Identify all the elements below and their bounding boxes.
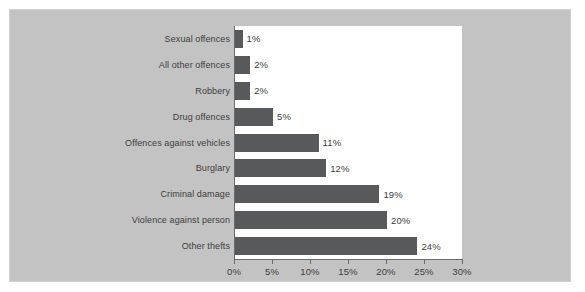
bar-row: Burglary12%: [10, 155, 572, 181]
category-label: Burglary: [20, 163, 230, 173]
bar-container: 20%: [235, 207, 410, 233]
bar-row: Offences against vehicles11%: [10, 130, 572, 156]
bar-container: 12%: [235, 155, 350, 181]
x-tick-label: 0%: [227, 266, 241, 277]
category-label: Drug offences: [20, 112, 230, 122]
category-label: Criminal damage: [20, 189, 230, 199]
x-axis-ticks: 0%5%10%15%20%25%30%: [234, 260, 463, 282]
x-tick-label: 30%: [452, 266, 471, 277]
bar-value-label: 11%: [323, 137, 342, 148]
bar-value-label: 5%: [277, 111, 291, 122]
bar-container: 24%: [235, 233, 441, 259]
x-tick-label: 10%: [300, 266, 319, 277]
category-label: Violence against person: [20, 215, 230, 225]
bar-row: Violence against person20%: [10, 207, 572, 233]
bar-value-label: 2%: [254, 85, 268, 96]
x-tick-mark: [462, 260, 463, 264]
bar-value-label: 12%: [330, 163, 349, 174]
x-tick-label: 15%: [338, 266, 357, 277]
bar-row: Drug offences5%: [10, 104, 572, 130]
bar-row: Robbery2%: [10, 78, 572, 104]
bar-value-label: 20%: [391, 215, 410, 226]
bar[interactable]: [235, 237, 417, 255]
x-tick-label: 25%: [414, 266, 433, 277]
bar-container: 1%: [235, 26, 261, 52]
category-label: Offences against vehicles: [20, 138, 230, 148]
x-tick-label: 20%: [376, 266, 395, 277]
bar-container: 2%: [235, 78, 268, 104]
x-tick-mark: [310, 260, 311, 264]
bar[interactable]: [235, 56, 250, 74]
bar-value-label: 1%: [247, 33, 261, 44]
bar-container: 5%: [235, 104, 291, 130]
bar-value-label: 24%: [421, 241, 440, 252]
x-tick-mark: [424, 260, 425, 264]
bar-row: Other thefts24%: [10, 233, 572, 259]
bar-value-label: 2%: [254, 59, 268, 70]
category-label: Sexual offences: [20, 34, 230, 44]
bar[interactable]: [235, 185, 379, 203]
x-tick-mark: [348, 260, 349, 264]
x-tick-mark: [386, 260, 387, 264]
bar[interactable]: [235, 211, 387, 229]
x-tick-label: 5%: [265, 266, 279, 277]
bar-rows: Sexual offences1%All other offences2%Rob…: [10, 26, 572, 259]
bar[interactable]: [235, 30, 243, 48]
x-tick-mark: [272, 260, 273, 264]
bar[interactable]: [235, 82, 250, 100]
bar[interactable]: [235, 134, 319, 152]
category-label: Other thefts: [20, 241, 230, 251]
bar-row: All other offences2%: [10, 52, 572, 78]
bar[interactable]: [235, 159, 326, 177]
bar-container: 11%: [235, 130, 341, 156]
bar-row: Sexual offences1%: [10, 26, 572, 52]
category-label: Robbery: [20, 86, 230, 96]
bar-container: 2%: [235, 52, 268, 78]
x-tick-mark: [234, 260, 235, 264]
chart-panel: Sexual offences1%All other offences2%Rob…: [9, 9, 571, 282]
bar-container: 19%: [235, 181, 403, 207]
bar[interactable]: [235, 108, 273, 126]
bar-value-label: 19%: [383, 189, 402, 200]
category-label: All other offences: [20, 60, 230, 70]
bar-row: Criminal damage19%: [10, 181, 572, 207]
